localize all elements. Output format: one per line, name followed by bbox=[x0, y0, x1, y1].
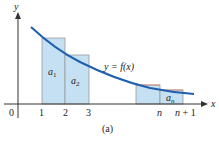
tick-2: 2 bbox=[63, 107, 68, 118]
x-axis-arrow-icon bbox=[201, 101, 208, 107]
tick-n-plus-1: n + 1 bbox=[175, 107, 196, 118]
curve-label: y = f(x) bbox=[103, 61, 135, 73]
figure-caption: (a) bbox=[102, 123, 113, 135]
origin-label: 0 bbox=[9, 107, 14, 118]
tick-n: n bbox=[157, 107, 162, 118]
integral-test-diagram: y x 0 1 2 3 n n + 1 a1 a2 an y = f(x) (a… bbox=[0, 0, 219, 142]
tick-3: 3 bbox=[86, 107, 91, 118]
y-axis-label: y bbox=[13, 1, 19, 12]
x-axis-label: x bbox=[210, 98, 216, 109]
y-axis-arrow-icon bbox=[15, 12, 21, 19]
tick-1: 1 bbox=[39, 107, 44, 118]
